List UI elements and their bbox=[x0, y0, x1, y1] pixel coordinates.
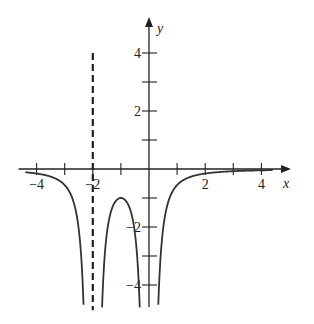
tick-labels: xy−4−22442−2−4 bbox=[29, 21, 290, 293]
y-axis-label: y bbox=[155, 21, 164, 36]
x-tick-label: 4 bbox=[258, 177, 265, 192]
x-tick-label: −4 bbox=[29, 177, 44, 192]
x-tick-label: 2 bbox=[202, 177, 209, 192]
curve-branch-left bbox=[25, 172, 83, 305]
y-tick-label: 4 bbox=[134, 46, 141, 61]
axes bbox=[19, 17, 291, 307]
chart: xy−4−22442−2−4 bbox=[0, 0, 314, 324]
x-axis-label: x bbox=[282, 176, 290, 191]
x-axis-arrow bbox=[281, 165, 291, 173]
y-axis-arrow bbox=[145, 17, 153, 27]
y-tick-label: 2 bbox=[134, 104, 141, 119]
curve-branch-right bbox=[158, 170, 272, 305]
